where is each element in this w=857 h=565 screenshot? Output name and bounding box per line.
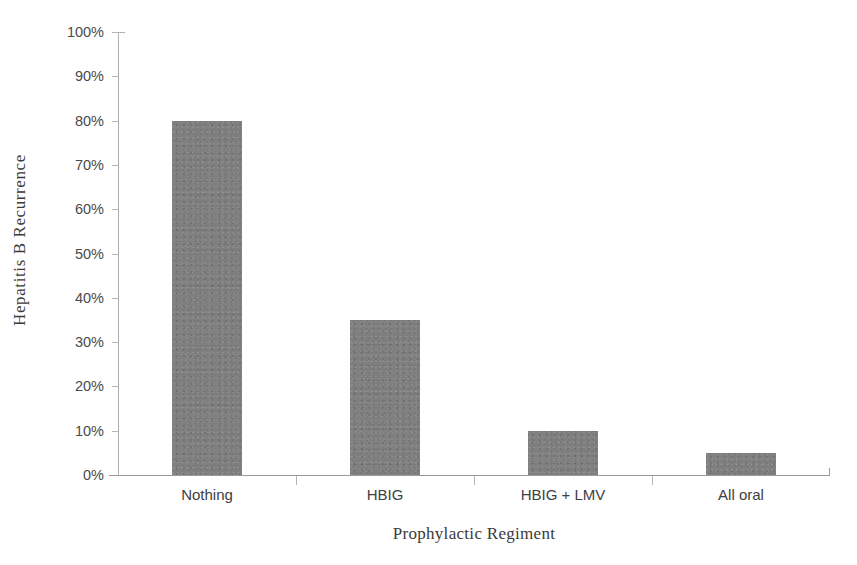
y-tick-label: 90% [48, 68, 104, 84]
y-tick-label: 10% [48, 423, 104, 439]
y-tick-label: 20% [48, 378, 104, 394]
plot-area [118, 32, 830, 475]
y-tick-label: 30% [48, 334, 104, 350]
y-tick-label: 0% [48, 467, 104, 483]
y-tick-label: 80% [48, 113, 104, 129]
bar[interactable] [528, 431, 598, 475]
bar[interactable] [350, 320, 420, 475]
x-tick-label: HBIG [296, 486, 474, 503]
bar-chart: Hepatitis B Recurrence 100%90%80%70%60%5… [0, 0, 857, 565]
y-tick-mark [109, 475, 122, 476]
y-tick-label: 60% [48, 201, 104, 217]
y-tick-label: 70% [48, 157, 104, 173]
category-separator-tick [652, 476, 653, 485]
y-tick-label: 40% [48, 290, 104, 306]
x-tick-label: HBIG + LMV [474, 486, 652, 503]
category-separator-tick [474, 476, 475, 485]
bar[interactable] [706, 453, 776, 475]
y-tick-label: 100% [48, 24, 104, 40]
y-axis-title-text: Hepatitis B Recurrence [10, 154, 30, 326]
y-axis-title: Hepatitis B Recurrence [0, 0, 40, 480]
bar[interactable] [172, 121, 242, 475]
x-axis-title: Prophylactic Regiment [118, 524, 830, 544]
category-separator-tick [296, 476, 297, 485]
y-tick-label: 50% [48, 246, 104, 262]
x-tick-label: All oral [652, 486, 830, 503]
x-tick-label: Nothing [118, 486, 296, 503]
